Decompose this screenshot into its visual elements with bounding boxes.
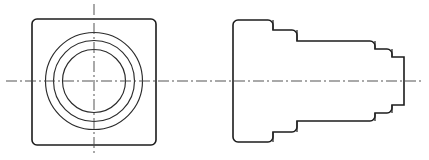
drawing-surface [0, 0, 429, 160]
front-view-group [32, 4, 156, 156]
technical-drawing-canvas [0, 0, 429, 160]
